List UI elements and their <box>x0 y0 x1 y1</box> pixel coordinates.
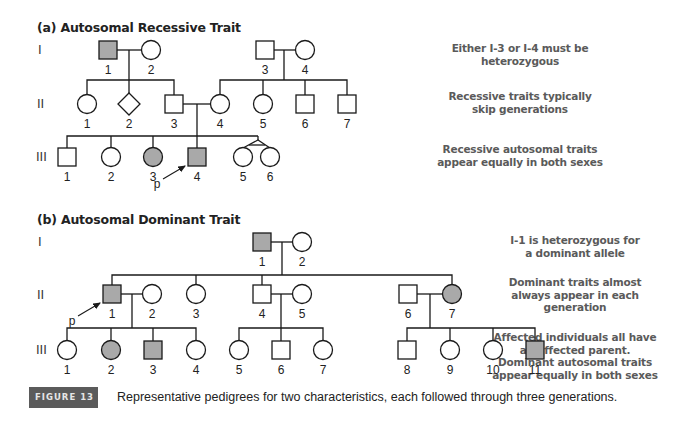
individual-number: 6 <box>278 363 285 377</box>
individual-number: 2 <box>108 170 115 184</box>
panel-b-individual-ii-1 <box>103 285 121 303</box>
individual-number: 2 <box>126 117 133 131</box>
individual-number: 5 <box>299 307 306 321</box>
panel-b-individual-iii-8 <box>398 341 416 359</box>
individual-number: 5 <box>240 170 247 184</box>
individual-number: 1 <box>64 170 71 184</box>
individual-number: 1 <box>64 363 71 377</box>
panel-a-individual-ii-3 <box>165 95 183 113</box>
individual-number: 4 <box>217 117 224 131</box>
individual-number: 7 <box>320 363 327 377</box>
individual-number: 6 <box>267 170 274 184</box>
individual-number: 10 <box>486 363 500 377</box>
panel-a-individual-ii-1 <box>78 95 97 114</box>
individual-number: 4 <box>259 307 266 321</box>
individual-number: 3 <box>171 117 178 131</box>
panel-b-individual-ii-4 <box>253 285 271 303</box>
individual-number: 1 <box>84 117 91 131</box>
individual-number: 1 <box>105 63 112 77</box>
individual-number: 9 <box>447 363 454 377</box>
panel-a-individual-i-3 <box>256 41 274 59</box>
panel-b-individual-ii-7 <box>443 285 462 304</box>
panel-a-individual-i-4 <box>296 41 315 60</box>
panel-b-individual-iii-10 <box>484 341 503 360</box>
panel-b-individual-iii-4 <box>187 341 206 360</box>
panel-b-individual-i-1 <box>253 233 271 251</box>
individual-number: 6 <box>405 307 412 321</box>
individual-number: 5 <box>260 117 267 131</box>
individual-number: 3 <box>193 307 200 321</box>
panel-a-individual-iii-3 <box>144 148 163 167</box>
individual-number: 1 <box>259 255 266 269</box>
panel-b-individual-ii-5 <box>293 285 312 304</box>
individual-number: 6 <box>302 117 309 131</box>
proband-arrow-icon <box>163 166 185 179</box>
panel-b-individual-iii-11 <box>526 341 544 359</box>
figure-caption: Representative pedigrees for two charact… <box>117 390 617 404</box>
individual-number: 2 <box>149 307 156 321</box>
individual-number: 4 <box>302 63 309 77</box>
individual-number: 2 <box>148 63 155 77</box>
panel-b-individual-iii-1 <box>58 341 77 360</box>
proband-markers: pp <box>69 166 185 328</box>
individual-number: 2 <box>108 363 115 377</box>
individual-number: 4 <box>193 363 200 377</box>
panel-b-individual-i-2 <box>293 233 312 252</box>
panel-b-individual-ii-6 <box>399 285 417 303</box>
panel-a-individual-i-1 <box>99 41 117 59</box>
panel-b-individual-iii-9 <box>441 341 460 360</box>
individual-number: 11 <box>529 363 542 377</box>
panel-a-individual-ii-5 <box>254 95 273 114</box>
panel-a-individual-iii-6 <box>261 148 280 167</box>
individual-number: 8 <box>404 363 411 377</box>
individual-number: 3 <box>150 363 157 377</box>
proband-arrow-icon <box>78 303 100 316</box>
panel-a-individual-ii-7 <box>338 95 356 113</box>
pedigree-canvas: 123412345671234561212345671234567891011 … <box>0 0 689 427</box>
panel-b-individual-iii-6 <box>272 341 290 359</box>
panel-b-individual-ii-3 <box>187 285 206 304</box>
panel-a-individual-ii-2 <box>118 93 140 115</box>
individual-number: 7 <box>449 307 456 321</box>
panel-a-individual-iii-1 <box>58 148 76 166</box>
proband-label: p <box>154 177 161 191</box>
panel-b-individual-iii-5 <box>230 341 249 360</box>
panel-b-individual-iii-3 <box>144 341 162 359</box>
panel-a-individual-iii-5 <box>234 148 253 167</box>
panel-a-individual-ii-6 <box>296 95 314 113</box>
proband-label: p <box>69 314 76 328</box>
panel-a-individual-ii-4 <box>211 95 230 114</box>
panel-a-individual-iii-4 <box>188 148 206 166</box>
panel-b-individual-ii-2 <box>143 285 162 304</box>
panel-b-individual-iii-7 <box>314 341 333 360</box>
panel-a-individual-i-2 <box>142 41 161 60</box>
panel-a-individual-iii-2 <box>102 148 121 167</box>
figure-label: FIGURE 13 <box>29 387 98 408</box>
panel-b-individual-iii-2 <box>102 341 121 360</box>
individual-number: 2 <box>299 255 306 269</box>
individual-number: 5 <box>236 363 243 377</box>
individual-number: 4 <box>194 170 201 184</box>
individual-number: 7 <box>344 117 351 131</box>
individual-number: 1 <box>109 307 116 321</box>
individual-number: 3 <box>262 63 269 77</box>
